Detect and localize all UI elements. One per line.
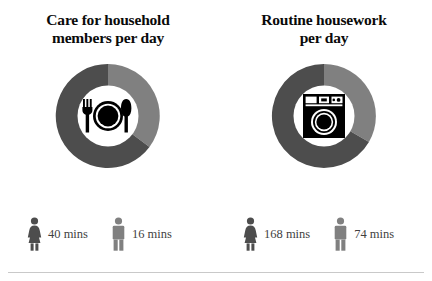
female-figure-icon [242,217,259,251]
panel-title-line-2: members per day [10,29,206,47]
female-figure-icon [26,217,43,251]
donut-chart-routine-housework [269,61,379,171]
legend-item-female[interactable]: 40 mins [26,217,88,251]
infographic-root: Care for household members per day [0,0,432,281]
donut-svg [53,61,163,171]
panel-container: Care for household members per day [0,0,432,265]
donut-hole [78,86,139,147]
legend-value-male: 74 mins [354,227,394,242]
legend-value-male: 16 mins [132,227,172,242]
male-figure-icon [110,217,127,251]
chart-panel-routine-housework: Routine housework per day [216,0,432,265]
panel-title-line-1: Routine housework [226,11,422,29]
legend-value-female: 168 mins [264,227,310,242]
panel-title-line-1: Care for household [10,11,206,29]
chart-panel-care-household: Care for household members per day [0,0,216,265]
legend-item-female[interactable]: 168 mins [242,217,310,251]
footer-divider [8,272,424,273]
donut-chart-care-household [53,61,163,171]
donut-svg [269,61,379,171]
legend-item-male[interactable]: 16 mins [110,217,172,251]
panel-title-line-2: per day [226,29,422,47]
panel-title: Care for household members per day [10,11,206,47]
legend-routine-housework: 168 mins 74 mins [216,217,432,251]
male-figure-icon [332,217,349,251]
donut-hole [294,86,355,147]
legend-care-household: 40 mins 16 mins [0,217,216,251]
legend-item-male[interactable]: 74 mins [332,217,394,251]
legend-value-female: 40 mins [48,227,88,242]
panel-title: Routine housework per day [226,11,422,47]
